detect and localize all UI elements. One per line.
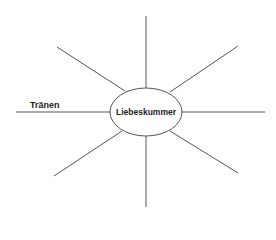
branch-label-left: Tränen (30, 100, 60, 110)
branch-line-lower-left (54, 131, 122, 176)
branch-line-upper-right (170, 46, 238, 92)
branch-line-lower-right (170, 131, 238, 173)
branch-line-upper-left (57, 47, 125, 91)
center-node-label: Liebeskummer (116, 107, 176, 117)
